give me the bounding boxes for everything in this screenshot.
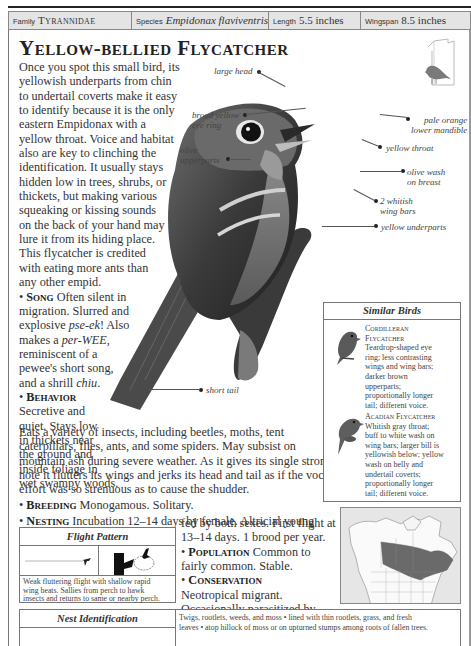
page-bird-icon — [420, 35, 462, 93]
family-value: Tyrannidae — [38, 14, 95, 26]
leader-line — [380, 114, 408, 118]
leader-line — [360, 171, 402, 172]
label-short-tail: short tail — [206, 385, 239, 395]
species-value: Empidonax flaviventris — [166, 14, 268, 26]
similar-birds-title: Similar Birds — [324, 303, 460, 320]
family-label: Family — [13, 17, 35, 26]
length-label: Length — [273, 17, 296, 26]
sally-flight-icon — [108, 547, 168, 575]
nest-description: Twigs, rootlets, weeds, and moss • lined… — [179, 613, 428, 632]
wingspan-value: 8.5 inches — [401, 14, 446, 26]
label-yellow-underparts: yellow underparts — [381, 222, 446, 232]
breeding-section: • Breeding Monogamous. Solitary. — [19, 498, 339, 512]
label-eye-ring: broad yelloweye ring — [192, 110, 239, 130]
cordilleran-flycatcher-image — [332, 327, 362, 367]
behavior-continued: Eats a variety of insects, including bee… — [19, 425, 339, 528]
divider — [98, 546, 99, 576]
top-rule — [8, 6, 471, 8]
wingspan-cell: Wingspan 8.5 inches — [361, 12, 470, 29]
conservation-section: • Conservation — [181, 573, 331, 587]
length-value: 5.5 inches — [299, 14, 344, 26]
acadian-flycatcher-image — [334, 415, 364, 457]
acadian-flycatcher-description: Acadian Flycatcher Whitish gray throat; … — [365, 412, 459, 498]
label-wing-bars: 2 whitishwing bars — [380, 196, 416, 216]
label-olive-upperparts: oliveupperparts — [180, 145, 220, 165]
leader-dot — [374, 224, 378, 228]
length-cell: Length 5.5 inches — [269, 12, 361, 29]
straight-flight-icon — [25, 552, 95, 570]
species-header-bar: Family Tyrannidae Species Empidonax flav… — [8, 11, 471, 30]
species-cell: Species Empidonax flaviventris — [132, 12, 269, 29]
page-title: Yellow-bellied Flycatcher — [19, 38, 288, 59]
leader-line — [229, 159, 251, 160]
north-america-range-map — [341, 508, 461, 604]
family-cell: Family Tyrannidae — [9, 12, 132, 29]
nest-identification-details: Twigs, rootlets, weeds, and moss • lined… — [176, 609, 461, 646]
intro-line: Once you spot this small bird, its — [19, 60, 189, 74]
population-section: • Population Common to — [181, 545, 331, 559]
label-olive-wash: olive washon breast — [407, 167, 445, 187]
nest-identification-box: Nest Identification — [19, 609, 176, 646]
flight-pattern-title: Flight Pattern — [20, 528, 175, 546]
flight-pattern-illustrations — [20, 546, 175, 576]
leader-line — [322, 226, 374, 227]
flight-pattern-box: Flight Pattern Weak fluttering flight wi… — [19, 527, 176, 603]
flight-pattern-description: Weak fluttering flight with shallow rapi… — [23, 578, 160, 604]
wingspan-label: Wingspan — [365, 17, 398, 26]
label-yellow-throat: yellow throat — [386, 143, 433, 153]
label-lower-mandible: pale orangelower mandible — [411, 115, 467, 135]
leader-line — [148, 389, 200, 390]
similar-birds-box: Similar Birds Cordilleran Flycatcher Tea… — [323, 302, 461, 502]
cordilleran-flycatcher-description: Cordilleran Flycatcher Teardrop-shaped e… — [365, 324, 459, 410]
label-large-head: large head — [214, 66, 252, 76]
page-frame-left — [8, 30, 9, 646]
species-label: Species — [136, 17, 163, 26]
nest-identification-title: Nest Identification — [20, 610, 175, 628]
range-map — [340, 507, 461, 604]
